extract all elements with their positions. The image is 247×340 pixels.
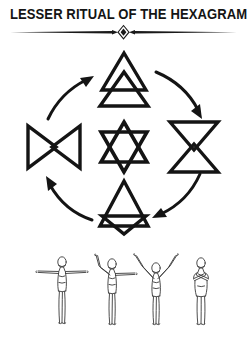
- page-title: LESSER RITUAL OF THE HEXAGRAM: [10, 6, 237, 22]
- curved-arrow-down-left: [152, 174, 200, 218]
- list-item: [194, 258, 209, 325]
- curved-arrow-up-right: [48, 76, 94, 119]
- title-block: LESSER RITUAL OF THE HEXAGRAM: [0, 6, 247, 40]
- list-item: [36, 257, 89, 324]
- divider-rule-left: [10, 31, 112, 34]
- six-pointed-star-hexagram: [101, 122, 147, 172]
- divider-rule-right: [135, 31, 237, 34]
- page-root: LESSER RITUAL OF THE HEXAGRAM: [0, 0, 247, 340]
- title-divider: [0, 24, 247, 40]
- ritual-posture-figures: [0, 252, 247, 340]
- list-item: [133, 254, 178, 325]
- curved-arrow-up-left: [46, 176, 92, 220]
- list-item: [94, 254, 137, 325]
- diamond-ornament: [112, 26, 135, 39]
- hexagram-cycle-diagram: [0, 44, 247, 244]
- earth-hexagram-glyph: [100, 181, 148, 234]
- curved-arrow-down-right: [156, 72, 202, 119]
- air-hexagram-glyph: [28, 126, 80, 168]
- water-hexagram-glyph: [170, 122, 218, 172]
- fire-hexagram-glyph: [100, 53, 148, 106]
